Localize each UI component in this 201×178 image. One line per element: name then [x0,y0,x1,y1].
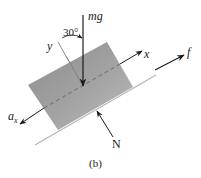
acceleration-subscript: x [14,116,18,125]
x-axis-arrow [120,51,142,64]
friction-label: f [187,46,190,58]
normal-force-label: N [112,138,121,150]
x-axis-label: x [144,48,149,60]
free-body-diagram: mg 30° y x f ax N (b) [0,0,201,178]
normal-force-arrow [97,111,113,137]
acceleration-label: ax [8,110,18,122]
friction-arrow [155,55,184,70]
y-axis-label: y [47,40,52,52]
block [28,42,133,130]
diagram-graphics [0,0,201,178]
figure-caption: (b) [89,158,102,169]
acceleration-arrow [20,108,44,124]
angle-label: 30° [63,27,78,38]
weight-label: mg [88,10,103,22]
